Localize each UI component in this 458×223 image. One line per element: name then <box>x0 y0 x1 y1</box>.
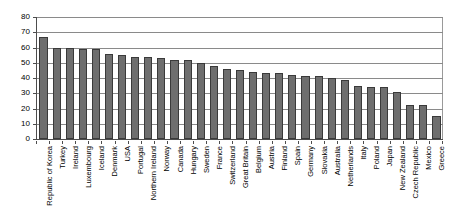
x-axis-label: Switzerland <box>229 146 237 185</box>
y-tick-label-70: 70 <box>21 28 30 36</box>
x-axis-label: Turkey <box>59 146 67 169</box>
x-tick-mark <box>246 141 247 144</box>
x-tick-mark <box>298 141 299 144</box>
gridline-0 <box>37 139 443 140</box>
x-axis-label: Canada <box>177 146 185 172</box>
x-tick-mark <box>337 141 338 144</box>
bar <box>301 76 309 139</box>
x-tick-mark <box>285 141 286 144</box>
x-tick-mark <box>403 141 404 144</box>
x-tick-mark <box>36 141 37 144</box>
bar <box>275 73 283 139</box>
bar <box>118 55 126 139</box>
x-axis-label: Greece <box>438 146 446 171</box>
x-tick-mark <box>180 141 181 144</box>
bar <box>210 66 218 139</box>
x-tick-mark <box>272 141 273 144</box>
x-tick-mark <box>350 141 351 144</box>
bar <box>419 105 427 139</box>
x-tick-mark <box>115 141 116 144</box>
bar <box>157 58 165 139</box>
bar <box>380 87 388 139</box>
x-axis-label: Sweden <box>203 146 211 173</box>
x-tick-mark <box>62 141 63 144</box>
bar <box>432 116 440 139</box>
x-tick-mark <box>167 141 168 144</box>
bar <box>249 72 257 139</box>
x-axis-label: Czech Republic <box>412 146 420 199</box>
x-axis-label: Norway <box>163 146 171 171</box>
y-tick-label-50: 50 <box>21 59 30 67</box>
x-axis-label: Italy <box>360 146 368 160</box>
x-axis-label: Slovakia <box>321 146 329 174</box>
x-tick-mark <box>324 141 325 144</box>
bar <box>315 76 323 139</box>
bar <box>79 49 87 139</box>
bar <box>406 105 414 139</box>
bar <box>92 49 100 139</box>
x-tick-mark <box>154 141 155 144</box>
x-axis-label: Republic of Korea <box>46 146 54 206</box>
y-axis: 80706050403020100 <box>0 10 36 147</box>
bar <box>262 73 270 139</box>
x-axis-label: Iceland <box>98 146 106 170</box>
x-tick-mark <box>390 141 391 144</box>
plot-area <box>36 17 443 140</box>
bar <box>367 87 375 139</box>
x-axis: Republic of KoreaTurkeyIrelandLuxembourg… <box>36 141 443 223</box>
x-axis-label: Portugal <box>137 146 145 174</box>
bar <box>144 57 152 139</box>
x-tick-mark <box>429 141 430 144</box>
x-axis-label: Australia <box>334 146 342 175</box>
y-tick-label-10: 10 <box>21 120 30 128</box>
bar <box>197 63 205 139</box>
bar <box>328 78 336 139</box>
x-tick-mark <box>101 141 102 144</box>
x-axis-label: Finland <box>281 146 289 171</box>
x-axis-label: Austria <box>268 146 276 169</box>
y-tick-label-0: 0 <box>26 135 30 143</box>
x-axis-label: Germany <box>307 146 315 177</box>
x-axis-label: Denmark <box>111 146 119 176</box>
bar <box>288 75 296 139</box>
x-axis-label: France <box>216 146 224 169</box>
x-axis-label: Japan <box>386 146 394 166</box>
bar <box>66 48 74 140</box>
bar <box>131 57 139 139</box>
x-axis-label: New Zealand <box>399 146 407 190</box>
x-tick-mark <box>88 141 89 144</box>
x-axis-label: Northern Ireland <box>150 146 158 200</box>
bar <box>236 70 244 139</box>
x-tick-mark <box>442 141 443 144</box>
bar <box>354 86 362 139</box>
x-tick-mark <box>416 141 417 144</box>
y-tick-label-40: 40 <box>21 74 30 82</box>
x-tick-mark <box>141 141 142 144</box>
x-axis-label: Ireland <box>72 146 80 169</box>
x-axis-label: Mexico <box>425 146 433 170</box>
bar-chart-figure: 80706050403020100 Republic of KoreaTurke… <box>0 0 458 223</box>
x-axis-label: Luxembourg <box>85 146 93 188</box>
x-tick-mark <box>75 141 76 144</box>
x-tick-mark <box>206 141 207 144</box>
x-axis-label: Hungary <box>190 146 198 174</box>
x-tick-mark <box>219 141 220 144</box>
x-tick-mark <box>193 141 194 144</box>
x-tick-mark <box>377 141 378 144</box>
x-tick-mark <box>49 141 50 144</box>
x-axis-label: Poland <box>373 146 381 169</box>
bar <box>53 48 61 140</box>
x-tick-mark <box>363 141 364 144</box>
x-tick-mark <box>232 141 233 144</box>
bar <box>170 60 178 139</box>
x-axis-label: Netherlands <box>347 146 355 186</box>
y-tick-label-20: 20 <box>21 105 30 113</box>
bar <box>223 69 231 139</box>
bar <box>393 92 401 139</box>
y-tick-label-30: 30 <box>21 89 30 97</box>
y-tick-label-80: 80 <box>21 13 30 21</box>
x-tick-mark <box>128 141 129 144</box>
x-axis-label: Spain <box>294 146 302 165</box>
bar <box>341 80 349 139</box>
y-tick-label-60: 60 <box>21 44 30 52</box>
